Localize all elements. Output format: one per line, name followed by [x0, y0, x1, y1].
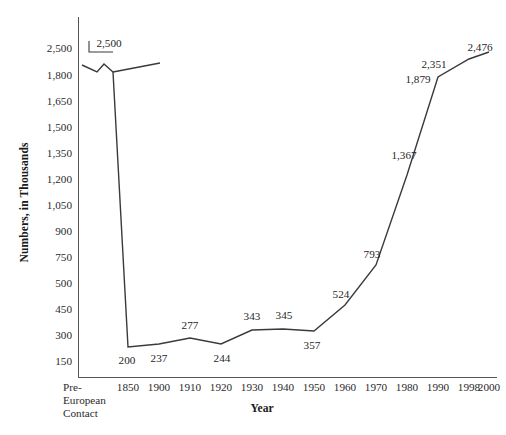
point-label-1990: 1,879: [405, 74, 430, 85]
x-tick-pre-european-contact-line3: Contact: [63, 407, 133, 420]
point-label-1998: 2,351: [421, 59, 446, 70]
point-label-2000: 2,476: [467, 42, 492, 53]
point-label-1900: 237: [151, 353, 168, 364]
x-tick-1980: 1980: [396, 381, 418, 394]
x-tick-1950: 1950: [303, 381, 325, 394]
point-label-1910: 277: [182, 320, 199, 331]
x-tick-1900: 1900: [148, 381, 170, 394]
point-label-1950: 357: [304, 340, 321, 351]
point-label-1940: 345: [276, 310, 293, 321]
point-label-1960: 524: [333, 289, 350, 300]
x-tick-1920: 1920: [210, 381, 232, 394]
line-chart: Numbers, in Thousands 2,500 1,800 1,650 …: [0, 0, 506, 435]
x-axis-title: Year: [232, 402, 292, 415]
x-tick-pre-european-contact-line2: European: [63, 394, 133, 407]
x-tick-1960: 1960: [334, 381, 356, 394]
point-label-pre-contact: 2,500: [96, 38, 121, 49]
point-label-1980: 1,367: [391, 150, 416, 161]
point-label-1920: 244: [214, 353, 231, 364]
x-tick-1930: 1930: [241, 381, 263, 394]
x-tick-1990: 1990: [427, 381, 449, 394]
x-tick-1940: 1940: [272, 381, 294, 394]
x-tick-1970: 1970: [365, 381, 387, 394]
data-point-labels: 2,500 200 237 277 244 343 345 357 524 79…: [0, 0, 506, 435]
x-tick-2000: 2000: [478, 381, 500, 394]
x-tick-1850: 1850: [117, 381, 139, 394]
x-tick-1910: 1910: [179, 381, 201, 394]
point-label-1930: 343: [244, 311, 261, 322]
point-label-1970: 793: [364, 249, 381, 260]
point-label-1850: 200: [119, 355, 136, 366]
